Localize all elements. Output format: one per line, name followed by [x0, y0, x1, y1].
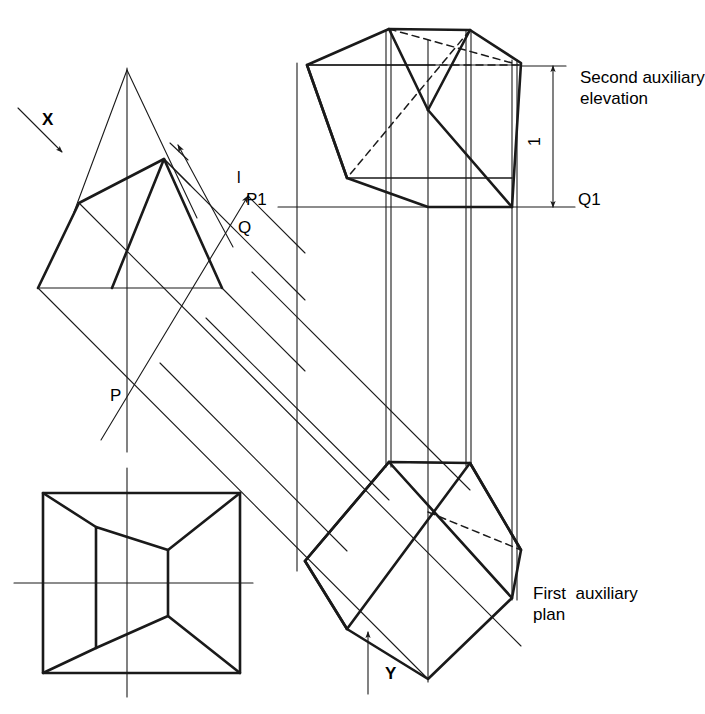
label-point-q: Q [238, 218, 251, 239]
band-projector-2 [252, 272, 470, 490]
construction-lines [14, 30, 575, 697]
elevation-view [38, 159, 222, 288]
elevation-internal-edge [112, 159, 164, 288]
projector-b [79, 203, 521, 646]
note-second-auxiliary-elevation-line2: elevation [580, 89, 648, 110]
label-direction-y: Y [385, 664, 396, 685]
aux2-hidden-lines [347, 29, 521, 178]
note-first-auxiliary-plan-line1: First auxiliary [533, 584, 638, 605]
aux2-thin-internal [307, 65, 512, 178]
apex-right-line [127, 70, 197, 218]
aux1-edge-ne [470, 463, 521, 550]
plan-inner-quad [96, 527, 168, 648]
plan-corner-link-tr [168, 493, 240, 550]
aux1-hidden-1 [389, 462, 512, 598]
plan-corner-link-br [168, 616, 240, 673]
note-first-auxiliary-plan-line2: plan [533, 605, 565, 626]
label-dimension-l: l [237, 168, 241, 188]
projector-c-stub [164, 159, 190, 185]
direction-arrow-X [18, 108, 62, 152]
plan-corner-link-bl [43, 648, 96, 673]
reference-line-PQ [101, 196, 248, 440]
aux1-edge-left [305, 561, 347, 629]
label-direction-x: X [42, 110, 53, 131]
elevation-outline [38, 159, 222, 288]
band-projector-4 [160, 363, 347, 551]
label-dimension-1: 1 [525, 137, 545, 146]
second-auxiliary-elevation-view [307, 29, 521, 207]
aux2-edge-b [428, 30, 470, 110]
label-point-p1: P1 [246, 190, 267, 211]
aux1-hidden-2 [428, 512, 521, 550]
aux2-edge-left [307, 65, 347, 178]
first-auxiliary-plan-view [305, 462, 521, 679]
drawing-sheet: X Y P Q P1 Q1 l 1 Second auxiliary eleva… [0, 0, 705, 714]
aux2-edge-c [428, 110, 512, 207]
plan-corner-link-tl [43, 493, 96, 527]
aux2-edge-a [389, 29, 428, 110]
label-point-q1: Q1 [578, 190, 601, 211]
label-point-p: P [110, 386, 121, 407]
aux2-hidden-2 [347, 30, 470, 178]
aux1-edge-nw [305, 462, 389, 561]
note-second-auxiliary-elevation-line1: Second auxiliary [580, 68, 705, 89]
dimension-l-tick [170, 143, 188, 160]
